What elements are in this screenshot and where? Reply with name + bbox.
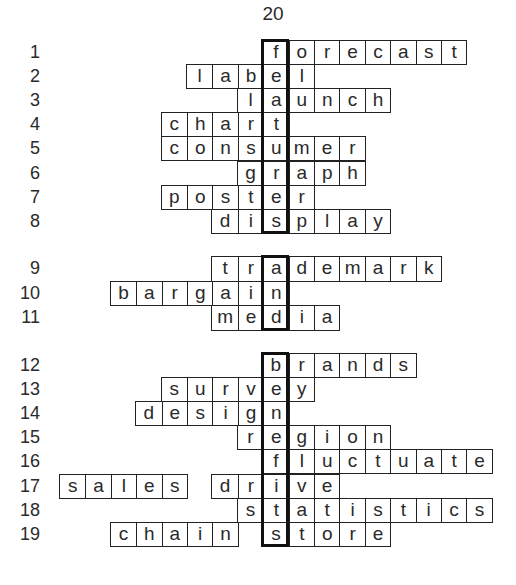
letter-cell: g (238, 402, 263, 426)
letter-cell: n (314, 89, 339, 113)
letter-cell: t (263, 499, 288, 523)
letter-cell: a (162, 523, 187, 547)
letter-cell: u (263, 137, 288, 161)
word-launch: launch (237, 88, 391, 113)
word-statistics: statistics (237, 498, 493, 523)
letter-cell: g (289, 426, 314, 450)
letter-cell: e (263, 378, 288, 402)
letter-cell: n (212, 523, 237, 547)
letter-cell: t (212, 257, 237, 282)
letter-cell: a (314, 354, 339, 378)
letter-cell: s (60, 475, 85, 499)
letter-cell: s (263, 523, 288, 547)
letter-cell: a (263, 257, 288, 282)
word-chart: chart (161, 112, 290, 137)
word-fluctuate: fluctuate (262, 449, 493, 474)
letter-cell: i (238, 282, 263, 307)
letter-cell: u (314, 450, 339, 474)
letter-cell: o (314, 523, 339, 547)
letter-cell: a (390, 41, 415, 65)
letter-cell: a (212, 65, 237, 89)
row-number: 18 (0, 498, 40, 522)
letter-cell: e (466, 450, 491, 474)
letter-cell: r (238, 426, 263, 450)
letter-cell: e (238, 306, 263, 331)
letter-cell: h (365, 89, 390, 113)
word-forecast: forecast (262, 40, 467, 65)
letter-cell: t (263, 113, 288, 137)
letter-cell: e (162, 402, 187, 426)
letter-cell: b (238, 65, 263, 89)
word-design: design (135, 401, 289, 426)
word-graph: graph (237, 161, 366, 186)
letter-cell: i (212, 402, 237, 426)
letter-cell: s (162, 378, 187, 402)
letter-cell: u (390, 450, 415, 474)
letter-cell: s (416, 41, 441, 65)
letter-cell: n (365, 426, 390, 450)
word-region: region (237, 425, 391, 450)
letter-cell: r (238, 113, 263, 137)
letter-cell: e (263, 186, 288, 210)
letter-cell: s (187, 402, 212, 426)
letter-cell: d (263, 306, 288, 331)
letter-cell: i (238, 210, 263, 234)
letter-cell: e (263, 426, 288, 450)
letter-cell: a (416, 450, 441, 474)
letter-cell: e (365, 523, 390, 547)
letter-cell: a (365, 257, 390, 282)
letter-cell: i (339, 499, 364, 523)
letter-cell: m (212, 306, 237, 331)
letter-cell: d (365, 354, 390, 378)
word-bargain: bargain (110, 281, 290, 307)
letter-cell: n (339, 354, 364, 378)
row-number: 13 (0, 377, 40, 401)
letter-cell: u (187, 378, 212, 402)
letter-cell: c (339, 89, 364, 113)
row-number: 14 (0, 401, 40, 425)
letter-cell: s (390, 354, 415, 378)
letter-cell: r (339, 137, 364, 161)
letter-cell: t (314, 499, 339, 523)
letter-cell: a (339, 210, 364, 234)
letter-cell: t (289, 523, 314, 547)
letter-cell: d (289, 257, 314, 282)
word-survey: survey (161, 377, 315, 402)
letter-cell: y (289, 378, 314, 402)
letter-cell: r (289, 354, 314, 378)
puzzle-title: 20 (253, 3, 293, 25)
letter-cell: i (314, 426, 339, 450)
letter-cell: u (289, 89, 314, 113)
row-number: 3 (0, 88, 40, 112)
letter-cell: c (365, 41, 390, 65)
letter-cell: m (289, 137, 314, 161)
letter-cell: p (314, 162, 339, 186)
letter-cell: c (162, 113, 187, 137)
letter-cell: t (390, 499, 415, 523)
letter-cell: a (212, 113, 237, 137)
row-number: 7 (0, 185, 40, 209)
letter-cell: v (238, 378, 263, 402)
letter-cell: r (263, 162, 288, 186)
letter-cell: i (289, 306, 314, 331)
letter-cell: d (212, 210, 237, 234)
row-number: 19 (0, 522, 40, 546)
letter-cell: t (441, 41, 466, 65)
letter-cell: o (289, 41, 314, 65)
letter-cell: s (263, 210, 288, 234)
letter-cell: p (289, 210, 314, 234)
letter-cell: r (238, 475, 263, 499)
letter-cell: a (85, 475, 110, 499)
letter-cell: d (136, 402, 161, 426)
word-drive: drive (211, 474, 340, 499)
letter-cell: e (314, 475, 339, 499)
letter-cell: t (365, 450, 390, 474)
letter-cell: i (416, 499, 441, 523)
letter-cell: e (339, 41, 364, 65)
letter-cell: g (238, 162, 263, 186)
row-number: 5 (0, 136, 40, 160)
row-number: 12 (0, 353, 40, 377)
row-number: 2 (0, 64, 40, 88)
letter-cell: s (212, 186, 237, 210)
letter-cell: b (111, 282, 136, 307)
